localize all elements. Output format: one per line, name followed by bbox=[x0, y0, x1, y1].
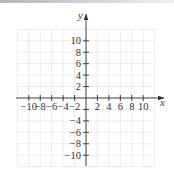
x-tick-label: 6 bbox=[118, 101, 123, 112]
y-tick-label: 2 bbox=[76, 81, 81, 92]
x-tick-label: −4 bbox=[58, 101, 70, 112]
y-tick-label: 10 bbox=[71, 35, 82, 46]
x-tick-label: −6 bbox=[46, 101, 57, 112]
x-axis-label: x bbox=[159, 96, 165, 108]
x-tick-label: 8 bbox=[129, 101, 134, 112]
axes bbox=[16, 13, 165, 166]
x-tick-label: 10 bbox=[138, 101, 149, 112]
y-axis-label: y bbox=[77, 9, 83, 21]
y-axis-arrow-icon bbox=[84, 13, 88, 20]
x-tick-label: 4 bbox=[106, 101, 112, 112]
x-tick-label: −8 bbox=[35, 101, 46, 112]
y-tick-label: 6 bbox=[76, 58, 81, 69]
x-tick-label: 2 bbox=[95, 101, 100, 112]
y-tick-label: −10 bbox=[65, 150, 81, 161]
y-tick-label: −8 bbox=[70, 138, 81, 149]
y-tick-label: −4 bbox=[70, 115, 82, 126]
x-tick-label: −2 bbox=[69, 101, 80, 112]
y-tick-label: 4 bbox=[76, 70, 82, 81]
y-tick-label: 8 bbox=[76, 47, 81, 58]
y-tick-label: −6 bbox=[70, 127, 81, 138]
coordinate-plane: −10−8−6−4−2246810 108642−4−6−8−10 x y bbox=[0, 0, 174, 180]
